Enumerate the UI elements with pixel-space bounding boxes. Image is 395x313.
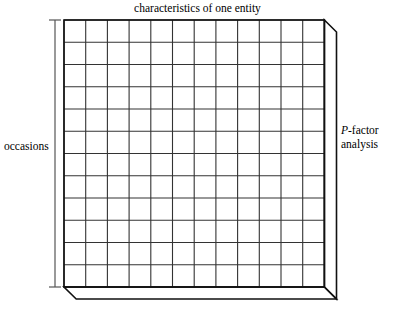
- p-factor-rest: -factor: [348, 124, 379, 136]
- grid-cells: [64, 20, 324, 287]
- data-box-diagram: characteristics of one entity occasions …: [0, 0, 395, 313]
- diagram-canvas: [0, 0, 395, 313]
- occasions-axis-label: occasions: [4, 140, 48, 153]
- right-depth-panel: [324, 20, 336, 299]
- p-factor-italic-p: P: [341, 124, 348, 136]
- analysis-text: analysis: [341, 138, 378, 150]
- bottom-depth-panel: [64, 287, 337, 299]
- occasions-bracket: [49, 20, 61, 287]
- page-title: characteristics of one entity: [0, 2, 395, 15]
- p-factor-analysis-label: P-factoranalysis: [341, 124, 395, 151]
